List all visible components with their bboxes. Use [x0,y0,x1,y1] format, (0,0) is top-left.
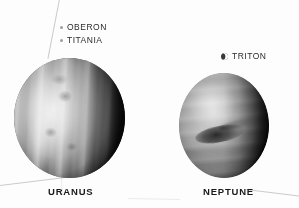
moon-dot-icon [60,39,63,42]
planet-label-neptune: NEPTUNE [203,186,254,197]
moon-label-titania: TITANIA [67,35,102,45]
planet-neptune [179,73,269,178]
moon-callout-oberon: OBERON [60,22,107,32]
scanline-bottom-center [128,198,180,200]
moon-label-oberon: OBERON [67,22,107,32]
moon-label-triton: TRITON [232,51,266,61]
planet-uranus [14,58,125,178]
crescent-moon-icon [221,53,228,60]
moon-dot-icon [60,26,63,29]
neptune-terminator [179,73,269,178]
moon-callout-triton: TRITON [221,51,266,61]
astronomy-figure: OBERON TITANIA TRITON URANUS NEPTUNE [0,0,299,208]
planet-label-uranus: URANUS [48,186,93,197]
scanline-top-diagonal [47,0,61,59]
uranus-terminator [14,58,125,178]
moon-callout-titania: TITANIA [60,35,102,45]
